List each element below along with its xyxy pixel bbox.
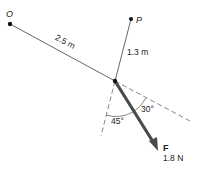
label-force-magnitude: 1.8 N [163,153,183,163]
label-force-name: F [163,143,169,153]
label-angle-30: 30° [141,104,154,114]
force-diagram: O P 2.5 m 1.3 m 45° 30° F 1.8 N [0,0,197,169]
label-segment-oa: 2.5 m [54,32,77,51]
segment-p-a-extension [101,81,115,136]
label-p: P [136,15,142,25]
point-p [129,17,133,21]
label-o: O [6,9,13,19]
label-angle-45: 45° [111,116,124,126]
point-o [8,22,12,26]
point-a [113,79,117,83]
segment-o-a [10,24,115,81]
label-segment-pa: 1.3 m [127,47,148,57]
